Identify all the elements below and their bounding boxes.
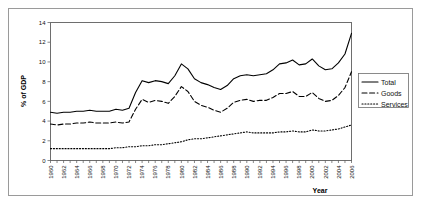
x-tick-label: 1978 (165, 165, 171, 179)
x-axis-title: Year (313, 187, 328, 194)
y-tick-label: 12 (39, 39, 46, 45)
x-tick-label: 1988 (231, 165, 237, 179)
x-tick-label: 2000 (309, 165, 315, 179)
plot-area (51, 23, 352, 161)
legend-label-services: Services (381, 101, 408, 108)
x-tick-label: 1972 (126, 165, 132, 179)
x-tick-label: 1964 (74, 165, 80, 179)
x-tick-label: 1966 (87, 165, 93, 179)
x-tick-label: 1968 (100, 165, 106, 179)
x-tick-label: 1986 (218, 165, 224, 179)
y-tick-label: 8 (42, 79, 46, 85)
x-tick-label: 1974 (139, 165, 145, 179)
x-tick-label: 1976 (152, 165, 158, 179)
x-tick-label: 1962 (61, 165, 67, 179)
y-tick-label: 6 (42, 99, 46, 105)
legend: TotalGoodsServices (359, 74, 409, 108)
x-tick-label: 2002 (323, 165, 329, 179)
chart-figure: 02468101214 1960196219641966196819701972… (0, 0, 431, 216)
x-tick-label: 1994 (270, 165, 276, 179)
x-tick-label: 1980 (179, 165, 185, 179)
legend-label-goods: Goods (381, 90, 402, 97)
x-tick-label: 2006 (349, 165, 355, 179)
x-tick-label: 1982 (192, 165, 198, 179)
x-axis-tick-labels: 1960196219641966196819701972197419761978… (48, 165, 355, 179)
y-tick-label: 14 (39, 20, 46, 26)
x-tick-label: 1990 (244, 165, 250, 179)
x-tick-label: 2004 (336, 165, 342, 179)
legend-label-total: Total (381, 79, 396, 86)
x-tick-label: 1992 (257, 165, 263, 179)
x-tick-label: 1960 (48, 165, 54, 179)
y-tick-label: 4 (42, 118, 46, 124)
y-tick-label: 0 (42, 158, 46, 164)
x-tick-label: 1984 (205, 165, 211, 179)
line-chart: 02468101214 1960196219641966196819701972… (0, 0, 431, 216)
y-tick-label: 10 (39, 59, 46, 65)
y-axis-title: % of GDP (20, 75, 27, 107)
y-axis-tick-labels: 02468101214 (39, 20, 46, 164)
x-tick-label: 1970 (113, 165, 119, 179)
y-tick-label: 2 (42, 138, 46, 144)
x-tick-label: 1996 (283, 165, 289, 179)
x-tick-label: 1998 (296, 165, 302, 179)
